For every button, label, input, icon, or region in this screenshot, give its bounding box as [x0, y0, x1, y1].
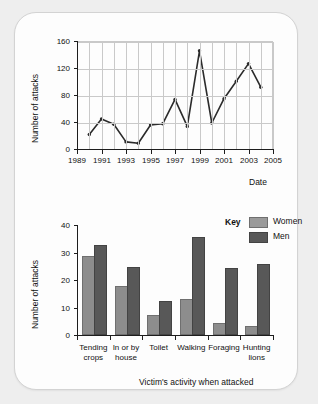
line-chart-y-tick-label: 0 — [15, 145, 70, 154]
line-chart-gridline-horizontal — [77, 96, 273, 97]
bar-chart: Number of attacks Key Women Men Victim's… — [15, 203, 299, 391]
bar-chart-x-axis-title: Victim's activity when attacked — [139, 377, 253, 387]
line-chart-y-tick — [74, 95, 78, 96]
line-chart-x-tick — [249, 150, 250, 154]
bar-men — [192, 237, 205, 335]
line-chart-x-tick — [102, 150, 103, 154]
bar-chart-category-separator — [273, 336, 274, 340]
line-chart-x-tick — [77, 150, 78, 154]
line-chart-y-axis-title: Number of attacks — [31, 74, 40, 143]
bar-men — [257, 264, 270, 335]
bar-chart-category-label: Huntinglions — [236, 343, 277, 362]
line-chart-y-tick-label: 160 — [15, 37, 70, 46]
line-chart-x-tick-label: 1993 — [112, 156, 140, 165]
line-chart-gridline-vertical — [273, 42, 274, 150]
bar-chart-y-tick-label: 20 — [15, 276, 70, 285]
bar-chart-y-tick — [74, 225, 78, 226]
bar-men — [159, 301, 172, 335]
bar-chart-y-tick — [74, 308, 78, 309]
line-chart-y-tick — [74, 68, 78, 69]
bar-chart-category-separator — [175, 336, 176, 340]
line-chart-x-tick-label: 2005 — [259, 156, 287, 165]
bar-men — [225, 268, 238, 335]
bar-men — [94, 245, 107, 335]
legend-label-men: Men — [273, 231, 290, 241]
bar-chart-y-tick-label: 40 — [15, 221, 70, 230]
line-chart-y-tick — [74, 41, 78, 42]
legend-label-women: Women — [273, 216, 302, 226]
bar-chart-category-separator — [142, 336, 143, 340]
line-chart-gridline-horizontal — [77, 123, 273, 124]
bar-chart-category-separator — [77, 336, 78, 340]
legend-swatch-men — [249, 232, 268, 243]
line-chart-y-tick-label: 120 — [15, 64, 70, 73]
line-chart-plot-area — [77, 41, 273, 149]
bar-men — [127, 267, 140, 335]
bar-chart-y-tick-label: 30 — [15, 249, 70, 258]
bar-chart-plot-area — [77, 225, 273, 335]
line-chart-x-tick — [273, 150, 274, 154]
bar-chart-y-tick-label: 0 — [15, 331, 70, 340]
bar-chart-category-separator — [240, 336, 241, 340]
legend-swatch-women — [249, 217, 268, 228]
line-chart-gridline-horizontal — [77, 42, 273, 43]
line-chart-x-tick — [200, 150, 201, 154]
line-chart-x-tick — [224, 150, 225, 154]
bar-chart-category-separator — [208, 336, 209, 340]
chart-card: Number of attacks Date 04080120160198919… — [14, 12, 298, 390]
line-chart-x-tick-label: 1989 — [63, 156, 91, 165]
line-chart-x-tick-label: 2001 — [210, 156, 238, 165]
line-chart-x-tick-label: 1997 — [161, 156, 189, 165]
line-chart: Number of attacks Date 04080120160198919… — [15, 13, 299, 203]
bar-chart-y-tick — [74, 253, 78, 254]
screenshot-root: Number of attacks Date 04080120160198919… — [0, 0, 318, 404]
bar-chart-y-tick-label: 10 — [15, 304, 70, 313]
line-chart-y-tick-label: 80 — [15, 91, 70, 100]
legend-title: Key — [225, 217, 241, 227]
line-chart-x-axis-title: Date — [249, 177, 267, 187]
line-chart-x-tick — [175, 150, 176, 154]
line-chart-y-tick-label: 40 — [15, 118, 70, 127]
bar-chart-category-separator — [110, 336, 111, 340]
line-chart-y-tick — [74, 122, 78, 123]
line-chart-gridline-horizontal — [77, 69, 273, 70]
line-chart-x-tick — [126, 150, 127, 154]
bar-chart-y-tick — [74, 280, 78, 281]
line-chart-x-tick — [151, 150, 152, 154]
bar-chart-y-axis-title: Number of attacks — [31, 260, 40, 329]
